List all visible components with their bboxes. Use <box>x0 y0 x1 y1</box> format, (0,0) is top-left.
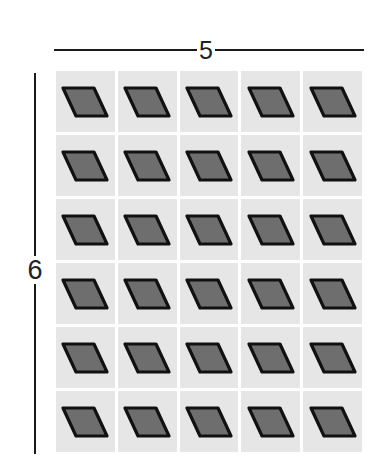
grid-cell <box>118 71 177 132</box>
height-dimension-line-top <box>34 73 36 256</box>
parallelogram-icon <box>122 341 172 375</box>
parallelogram-icon <box>60 277 110 311</box>
grid-cell <box>56 391 115 452</box>
shape-grid <box>56 71 362 452</box>
grid-cell <box>241 327 300 388</box>
parallelogram-icon <box>184 85 234 119</box>
parallelogram-icon <box>122 405 172 439</box>
grid-cell <box>118 199 177 260</box>
grid-cell <box>303 391 362 452</box>
grid-cell <box>118 327 177 388</box>
grid-cell <box>56 71 115 132</box>
rows-count-label: 6 <box>25 257 45 284</box>
width-dimension-line-left <box>54 49 204 51</box>
parallelogram-icon <box>246 341 296 375</box>
grid-cell <box>303 135 362 196</box>
grid-cell <box>180 327 239 388</box>
parallelogram-icon <box>308 405 358 439</box>
parallelogram-icon <box>246 277 296 311</box>
parallelogram-icon <box>246 213 296 247</box>
parallelogram-icon <box>184 277 234 311</box>
grid-cell <box>303 263 362 324</box>
columns-count-label: 5 <box>197 38 215 63</box>
grid-cell <box>118 391 177 452</box>
parallelogram-icon <box>60 341 110 375</box>
parallelogram-icon <box>246 149 296 183</box>
grid-cell <box>241 391 300 452</box>
parallelogram-icon <box>246 405 296 439</box>
parallelogram-icon <box>246 85 296 119</box>
parallelogram-icon <box>184 213 234 247</box>
parallelogram-icon <box>308 149 358 183</box>
height-dimension-line-bottom <box>34 284 36 454</box>
grid-cell <box>180 263 239 324</box>
grid-cell <box>180 391 239 452</box>
parallelogram-icon <box>60 405 110 439</box>
parallelogram-icon <box>308 213 358 247</box>
grid-cell <box>303 327 362 388</box>
grid-cell <box>303 71 362 132</box>
grid-cell <box>56 199 115 260</box>
grid-cell <box>241 71 300 132</box>
parallelogram-icon <box>308 341 358 375</box>
grid-cell <box>180 135 239 196</box>
width-dimension-line-right <box>214 49 364 51</box>
parallelogram-icon <box>184 405 234 439</box>
grid-cell <box>118 263 177 324</box>
parallelogram-icon <box>60 149 110 183</box>
grid-cell <box>241 263 300 324</box>
parallelogram-icon <box>60 85 110 119</box>
parallelogram-icon <box>122 213 172 247</box>
grid-cell <box>56 135 115 196</box>
grid-cell <box>180 199 239 260</box>
parallelogram-icon <box>184 341 234 375</box>
parallelogram-icon <box>184 149 234 183</box>
parallelogram-icon <box>60 213 110 247</box>
grid-cell <box>303 199 362 260</box>
parallelogram-icon <box>122 277 172 311</box>
grid-cell <box>241 199 300 260</box>
grid-cell <box>56 327 115 388</box>
grid-cell <box>56 263 115 324</box>
parallelogram-icon <box>122 149 172 183</box>
grid-cell <box>118 135 177 196</box>
parallelogram-icon <box>122 85 172 119</box>
parallelogram-icon <box>308 277 358 311</box>
grid-cell <box>241 135 300 196</box>
grid-cell <box>180 71 239 132</box>
parallelogram-icon <box>308 85 358 119</box>
